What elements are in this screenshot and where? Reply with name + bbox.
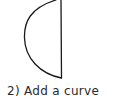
half-circle-drawing bbox=[0, 0, 116, 82]
curve-line bbox=[24, 0, 61, 78]
vertical-line bbox=[61, 0, 62, 78]
step-caption: 2) Add a curve bbox=[7, 84, 99, 98]
